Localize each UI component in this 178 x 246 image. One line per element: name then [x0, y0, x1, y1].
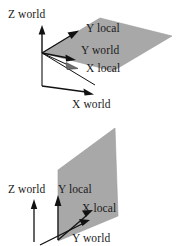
x-local-arrowhead-icon [66, 63, 78, 70]
horizontal-plane-diagram: Z world Y local Y world X local X world [0, 0, 178, 123]
label-y-world: Y world [72, 232, 110, 244]
label-y-world: Y world [81, 44, 119, 56]
x-world-arrowhead-icon [84, 89, 95, 96]
label-y-local: Y local [58, 183, 92, 195]
figure-container: Z world Y local Y world X local X world [0, 0, 178, 246]
label-z-world: Z world [8, 8, 46, 20]
x-world-axis-line [42, 86, 86, 92]
z-world-arrowhead-icon [31, 199, 37, 209]
z-world-arrowhead-icon [39, 25, 46, 35]
vertical-plane-diagram: Z world Y local X local Y world [0, 123, 178, 246]
label-x-local: X local [82, 202, 116, 214]
label-x-local: X local [86, 62, 120, 74]
label-y-local: Y local [86, 22, 120, 34]
label-x-world: X world [72, 98, 111, 110]
label-z-world: Z world [8, 183, 46, 195]
